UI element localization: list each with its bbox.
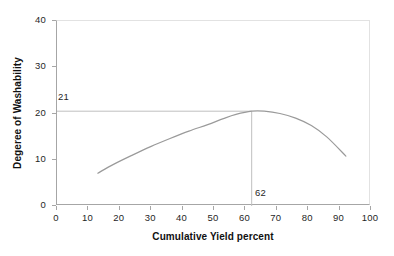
y-tick-label-10: 10 (6, 154, 46, 164)
x-axis-title: Cumulative Yield percent (56, 231, 370, 242)
x-tick-label-60: 60 (229, 213, 259, 223)
plot-svg (57, 21, 371, 206)
x-tick-mark-90 (339, 206, 340, 210)
x-tick-label-10: 10 (72, 213, 102, 223)
x-tick-mark-40 (182, 206, 183, 210)
x-tick-label-30: 30 (135, 213, 165, 223)
x-tick-label-70: 70 (261, 213, 291, 223)
x-tick-mark-10 (87, 206, 88, 210)
x-tick-label-90: 90 (324, 213, 354, 223)
x-tick-mark-100 (370, 206, 371, 210)
x-tick-mark-70 (276, 206, 277, 210)
x-tick-mark-20 (119, 206, 120, 210)
x-tick-mark-60 (244, 206, 245, 210)
washability-curve (98, 111, 346, 173)
y-tick-label-0: 0 (6, 200, 46, 210)
y-tick-label-40: 40 (6, 15, 46, 25)
x-tick-label-50: 50 (198, 213, 228, 223)
x-tick-label-20: 20 (104, 213, 134, 223)
x-annotation-label: 62 (255, 188, 266, 198)
x-tick-mark-0 (56, 206, 57, 210)
washability-chart: Degeree of Washability 010203040 0102030… (0, 0, 394, 256)
y-tick-label-30: 30 (6, 61, 46, 71)
x-tick-mark-80 (307, 206, 308, 210)
plot-area (56, 20, 370, 205)
x-tick-label-80: 80 (292, 213, 322, 223)
x-tick-mark-50 (213, 206, 214, 210)
y-annotation-label: 21 (58, 92, 69, 102)
x-tick-label-100: 100 (355, 213, 385, 223)
x-tick-label-40: 40 (167, 213, 197, 223)
x-tick-mark-30 (150, 206, 151, 210)
x-tick-label-0: 0 (41, 213, 71, 223)
y-tick-label-20: 20 (6, 108, 46, 118)
